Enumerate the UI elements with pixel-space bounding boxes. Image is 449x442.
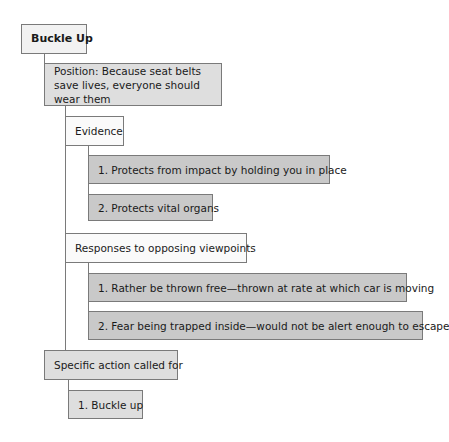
section-evidence-box: Evidence: [65, 116, 124, 146]
title-text: Buckle Up: [31, 32, 93, 46]
title-box: Buckle Up: [21, 24, 87, 54]
action-item-1: 1. Buckle up: [68, 390, 143, 419]
position-box: Position: Because seat belts save lives,…: [44, 63, 222, 106]
evidence-item-1-text: 1. Protects from impact by holding you i…: [98, 163, 347, 177]
responses-item-1: 1. Rather be thrown free—thrown at rate …: [88, 273, 407, 302]
action-box: Specific action called for: [44, 350, 178, 380]
position-text: Position: Because seat belts save lives,…: [54, 64, 212, 106]
section-responses-heading: Responses to opposing viewpoints: [75, 241, 256, 255]
responses-item-2-text: 2. Fear being trapped inside—would not b…: [98, 319, 449, 333]
responses-item-2: 2. Fear being trapped inside—would not b…: [88, 311, 423, 340]
section-evidence-heading: Evidence: [75, 124, 123, 138]
connector-title-to-position: [44, 53, 45, 63]
connector-action-items: [68, 379, 69, 390]
evidence-item-2-text: 2. Protects vital organs: [98, 201, 219, 215]
action-item-1-text: 1. Buckle up: [78, 398, 143, 412]
evidence-item-1: 1. Protects from impact by holding you i…: [88, 155, 330, 184]
responses-item-1-text: 1. Rather be thrown free—thrown at rate …: [98, 281, 434, 295]
evidence-item-2: 2. Protects vital organs: [88, 194, 213, 221]
section-responses-box: Responses to opposing viewpoints: [65, 233, 247, 263]
action-heading: Specific action called for: [54, 358, 183, 372]
